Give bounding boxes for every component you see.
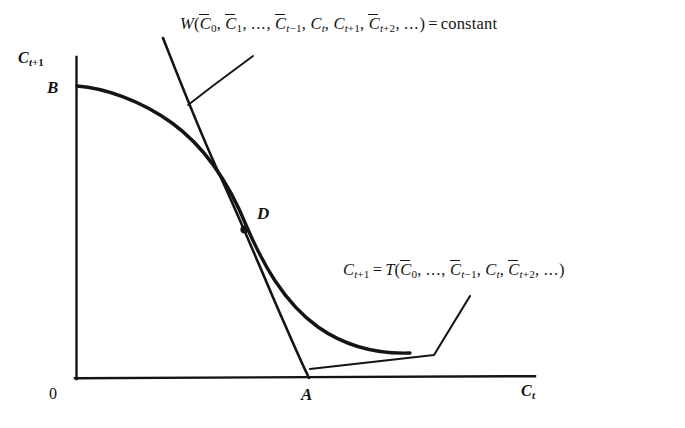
economics-diagram-figure: W(C0, C1, ..., Ct−1, Ct, Ct+1, Ct+2, ...… (0, 0, 685, 428)
point-label-b: B (47, 79, 59, 96)
origin-label: 0 (49, 386, 57, 402)
transformation-frontier-curve (77, 86, 410, 353)
welfare-curve-label: W(C0, C1, ..., Ct−1, Ct, Ct+1, Ct+2, ...… (180, 16, 497, 34)
point-label-a: A (301, 386, 313, 403)
tangency-point-marker (240, 225, 248, 233)
transformation-curve-label: Ct+1=T(C0, ..., Ct−1, Ct, Ct+2, ...) (343, 262, 565, 280)
transformation-label-leader-line (310, 296, 470, 369)
point-label-d: D (257, 205, 269, 222)
y-axis-label: Ct+1 (18, 50, 44, 68)
x-axis-line (75, 376, 535, 378)
x-axis-label: Ct (521, 383, 535, 401)
diagram-canvas (0, 0, 685, 428)
welfare-label-leader-line (188, 56, 253, 105)
welfare-indifference-curve (163, 38, 309, 378)
